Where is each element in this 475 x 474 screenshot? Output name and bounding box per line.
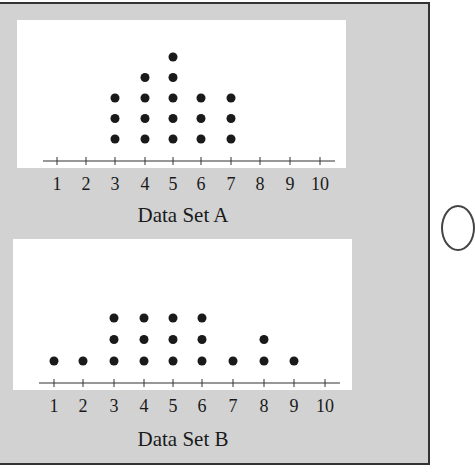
data-dot — [169, 135, 178, 144]
data-dot — [169, 335, 178, 344]
data-dot — [141, 73, 150, 82]
x-tick-label: 10 — [311, 174, 329, 194]
data-dot — [141, 94, 150, 103]
x-tick-label: 8 — [256, 174, 265, 194]
x-tick-label: 1 — [50, 396, 59, 416]
data-dot — [198, 335, 207, 344]
data-dot — [197, 114, 206, 123]
data-dot — [50, 357, 59, 366]
x-tick-label: 7 — [227, 174, 236, 194]
data-dot — [227, 135, 236, 144]
data-dot — [110, 314, 119, 323]
x-tick-label: 5 — [169, 396, 178, 416]
x-tick-label: 9 — [290, 396, 299, 416]
data-dot — [110, 335, 119, 344]
data-dot — [79, 357, 88, 366]
x-tick-label: 6 — [198, 396, 207, 416]
data-dot — [111, 135, 120, 144]
data-dot — [227, 94, 236, 103]
data-dot — [260, 335, 269, 344]
x-tick-label: 9 — [286, 174, 295, 194]
data-dot — [198, 357, 207, 366]
data-dot — [290, 357, 299, 366]
data-dot — [141, 135, 150, 144]
x-tick-label: 2 — [79, 396, 88, 416]
data-dot — [110, 357, 119, 366]
data-dot — [169, 53, 178, 62]
data-dot — [260, 357, 269, 366]
x-tick-label: 7 — [229, 396, 238, 416]
data-dot — [140, 335, 149, 344]
chart-title-a: Data Set A — [0, 203, 366, 228]
x-tick-label: 3 — [110, 396, 119, 416]
data-dot — [169, 357, 178, 366]
data-dot — [169, 73, 178, 82]
data-dot — [111, 114, 120, 123]
data-dot — [140, 357, 149, 366]
data-dot — [229, 357, 238, 366]
x-tick-label: 3 — [111, 174, 120, 194]
data-dot — [141, 114, 150, 123]
data-dot — [198, 314, 207, 323]
data-dot — [111, 94, 120, 103]
data-dot — [197, 135, 206, 144]
x-tick-label: 1 — [53, 174, 62, 194]
x-tick-label: 10 — [316, 396, 334, 416]
data-dot — [169, 314, 178, 323]
data-dot — [169, 94, 178, 103]
data-dot — [227, 114, 236, 123]
x-tick-label: 2 — [82, 174, 91, 194]
x-tick-label: 8 — [260, 396, 269, 416]
data-dot — [197, 94, 206, 103]
x-tick-label: 6 — [197, 174, 206, 194]
x-tick-label: 4 — [140, 396, 149, 416]
data-dot — [140, 314, 149, 323]
x-tick-label: 5 — [169, 174, 178, 194]
x-tick-label: 4 — [141, 174, 150, 194]
chart-title-b: Data Set B — [0, 427, 366, 452]
data-dot — [169, 114, 178, 123]
